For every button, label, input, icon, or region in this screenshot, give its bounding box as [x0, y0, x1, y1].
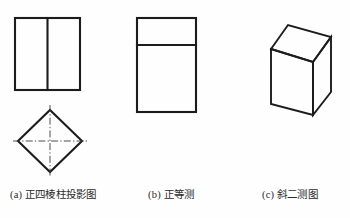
caption-figure-b: (b) 正等测: [148, 186, 194, 204]
oblique-box-right-face: [313, 37, 331, 115]
caption-figure-c: (c) 斜二测图: [262, 186, 318, 204]
figure-a-orthographic-projection: [13, 18, 87, 177]
figure-b-isometric-view: [137, 18, 196, 112]
caption-row: (a) 正四棱柱投影图 (b) 正等测 (c) 斜二测图: [0, 186, 350, 206]
front-view-rectangle: [15, 18, 80, 90]
isometric-outer-rectangle: [137, 18, 196, 112]
oblique-box-top-face: [271, 25, 331, 62]
technical-drawing-page: (a) 正四棱柱投影图 (b) 正等测 (c) 斜二测图: [0, 0, 350, 218]
top-view-diamond: [18, 110, 82, 172]
oblique-box-front-face: [271, 49, 313, 115]
figure-c-oblique-view: [271, 25, 331, 115]
caption-figure-a: (a) 正四棱柱投影图: [10, 186, 96, 204]
